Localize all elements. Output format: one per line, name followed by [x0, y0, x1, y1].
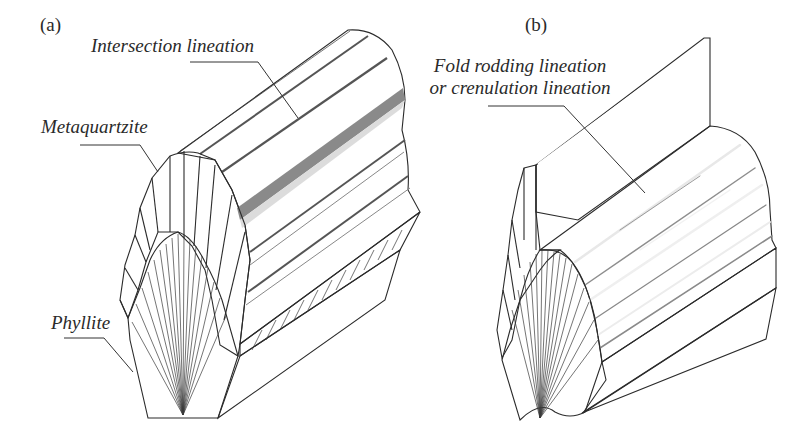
leader-metaquartzite — [80, 145, 158, 172]
label-fold-rodding-line1: Fold rodding lineation — [415, 55, 625, 77]
intersection-lineation-surface — [178, 30, 420, 344]
label-fold-rodding-lineation: Fold rodding lineation or crenulation li… — [415, 55, 625, 99]
phyllite-cleavage-b — [512, 250, 598, 418]
metaquartzite-joints — [120, 151, 245, 320]
leader-intersection-lineation — [190, 62, 298, 118]
label-fold-rodding-line2: or crenulation lineation — [415, 77, 625, 99]
label-intersection-lineation: Intersection lineation — [91, 35, 254, 57]
label-metaquartzite: Metaquartzite — [41, 116, 148, 138]
panel-label-b: (b) — [525, 14, 547, 36]
crenulation-lineation-surface — [540, 126, 776, 362]
block-front-face — [218, 250, 400, 418]
geology-lineation-diagram — [0, 0, 808, 433]
label-phyllite: Phyllite — [51, 312, 110, 334]
crenulation-lines — [575, 145, 772, 348]
leader-phyllite — [64, 338, 133, 372]
leader-fold-rodding — [488, 106, 645, 193]
phyllite-hatch — [252, 230, 402, 350]
panel-label-a: (a) — [40, 14, 61, 36]
metaquartzite-layer — [120, 152, 250, 356]
panel-a — [64, 30, 420, 418]
